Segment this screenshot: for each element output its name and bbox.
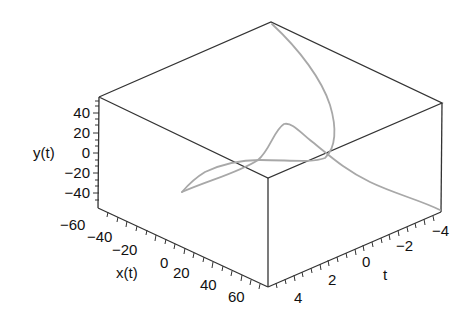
space-curve: [182, 24, 440, 210]
t-axis-label: t: [383, 266, 388, 283]
y-tick-label: 40: [73, 104, 90, 121]
3d-plot: 40 20 0 −20 −40 y(t) −60 −40 −20 0 20 40…: [0, 0, 475, 318]
x-axis-label: x(t): [116, 264, 138, 281]
y-tick-label: −20: [65, 164, 90, 181]
x-tick-label: 40: [200, 276, 217, 293]
y-tick-label: 0: [82, 144, 90, 161]
t-tick-label: 2: [328, 271, 336, 288]
t-tick-label: −2: [396, 237, 413, 254]
x-tick-label: 20: [173, 264, 190, 281]
bounding-box: [98, 22, 442, 287]
y-axis: 40 20 0 −20 −40 y(t): [33, 101, 99, 201]
x-tick-label: 0: [160, 254, 168, 271]
t-tick-label: 0: [362, 253, 370, 270]
t-tick-label: 4: [294, 289, 302, 306]
y-tick-label: −40: [65, 184, 90, 201]
x-tick-label: 60: [228, 288, 245, 305]
x-tick-label: −20: [112, 241, 137, 258]
t-axis: 4 2 0 −2 −4 t: [276, 216, 449, 306]
x-tick-label: −40: [87, 228, 112, 245]
t-tick-label: −4: [432, 222, 449, 239]
x-axis: −60 −40 −20 0 20 40 60 x(t): [60, 212, 260, 305]
y-tick-label: 20: [73, 124, 90, 141]
y-axis-label: y(t): [33, 144, 55, 161]
x-tick-label: −60: [60, 216, 85, 233]
